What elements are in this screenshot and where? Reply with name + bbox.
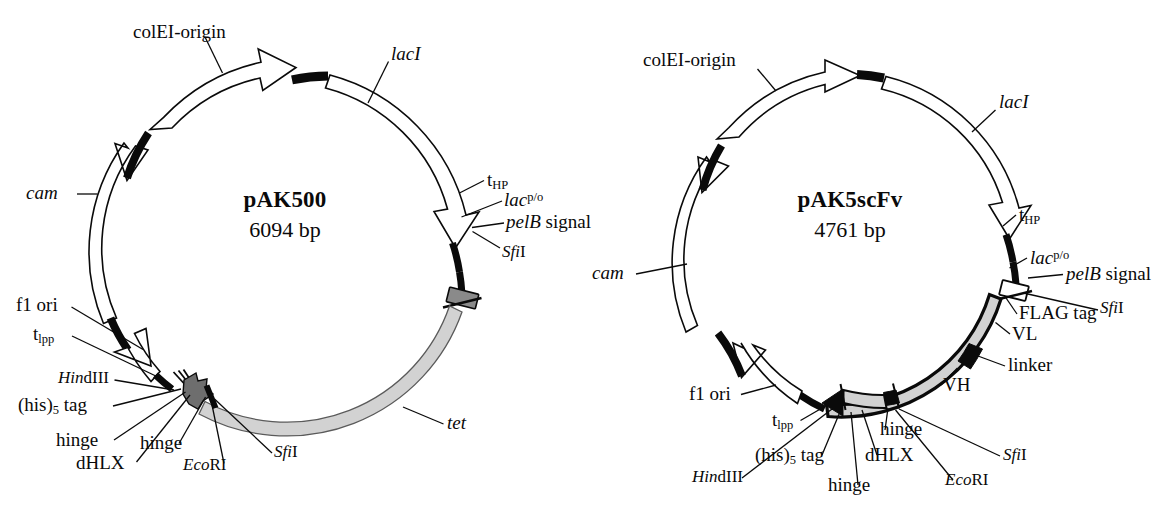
pak5scfv-label-pelb-signal: pelB signal: [1066, 264, 1151, 284]
pak5scfv-label-thp: tHP: [1019, 205, 1040, 227]
pak500-thp-black-segment: [453, 243, 460, 272]
pak500-label-hindiii-i: Hin: [58, 368, 84, 387]
pak5scfv-label-tlpp-sub: lpp: [777, 418, 793, 432]
pak500-label-pelb-rest: signal: [541, 211, 591, 232]
pak5scfv-label-hindiii: HindIII: [692, 468, 743, 486]
pak5scfv-label-colei-origin: colEI-origin: [643, 50, 736, 70]
pak500-tet-band: [199, 306, 462, 436]
pak500-label-ecori-i: Eco: [183, 455, 209, 474]
plasmid-pak5scfv: [636, 60, 1098, 485]
pak500-label-dhlx: dHLX: [76, 453, 125, 473]
pak5scfv-label-hindiii-r: dIII: [718, 467, 743, 486]
pak500-label-hinge-right: hinge: [140, 433, 182, 453]
pak500-leader-lines: [72, 37, 505, 464]
pak500-label-tlpp-sub: lpp: [38, 332, 54, 346]
pak500-top-black-joint: [292, 76, 328, 80]
pak500-label-f1-ori: f1 ori: [16, 295, 58, 315]
pak5scfv-label-sfi1-bot-r: I: [1021, 445, 1027, 464]
pak500-label-cam: cam: [26, 183, 58, 203]
pak5scfv-label-sfi1-bottom: SfiI: [1003, 446, 1027, 464]
pak5scfv-thp-black-segment: [1006, 235, 1013, 263]
pak500-label-laci: lacI: [391, 44, 421, 64]
pak5scfv-his-tag-block: [844, 390, 887, 408]
pak500-colei-origin-arc: [150, 49, 296, 130]
pak500-label-lacpo-sup: p/o: [527, 190, 543, 204]
pak5scfv-title: pAK5scFv: [750, 188, 950, 212]
pak5scfv-label-ecori-i: Eco: [945, 470, 971, 489]
pak5scfv-top-black-joint: [857, 75, 884, 79]
pak5scfv-label-ecori-r: RI: [971, 470, 988, 489]
pak500-label-lacpo: lacp/o: [504, 190, 543, 210]
pak5scfv-label-his-tag-post: tag: [796, 444, 824, 465]
pak5scfv-label-vl: VL: [1012, 324, 1037, 344]
pak5scfv-label-lacpo-base: lac: [1030, 247, 1053, 268]
pak5scfv-size: 4761 bp: [750, 218, 950, 241]
pak5scfv-label-cam: cam: [592, 263, 624, 283]
pak5scfv-label-hinge-bottom: hinge: [828, 475, 870, 495]
pak500-label-his-tag-pre: (his): [18, 394, 53, 415]
pak5scfv-label-hinge-mid: hinge: [880, 419, 922, 439]
pak5scfv-label-lacpo-sup: p/o: [1053, 248, 1069, 262]
pak5scfv-label-pelb-rest: signal: [1101, 263, 1151, 284]
pak5scfv-tlpp-black-bar: [800, 395, 825, 409]
pak5scfv-label-tlpp: tlpp: [772, 410, 793, 432]
pak5scfv-label-vh: VH: [943, 375, 970, 395]
pak500-label-sfi1-bot-i: Sfi: [274, 442, 292, 461]
pak500-title: pAK500: [190, 188, 380, 212]
pak5scfv-label-lacpo: lacp/o: [1030, 248, 1069, 268]
pak5scfv-label-sfi1-top-i: Sfi: [1100, 298, 1118, 317]
pak500-label-hinge-left: hinge: [56, 430, 98, 450]
pak500-label-sfi1-top-r: I: [520, 242, 526, 261]
pak5scfv-label-sfi1-top: SfiI: [1100, 299, 1124, 317]
pak5scfv-label-his-tag-pre: (his): [755, 444, 790, 465]
plasmid-pak500: [72, 37, 505, 464]
pak5scfv-label-hindiii-i: Hin: [692, 467, 718, 486]
pak500-label-tlpp: tlpp: [33, 324, 54, 346]
pak5scfv-label-flag-tag: FLAG tag: [1019, 303, 1097, 323]
pak500-label-colei-origin: colEI-origin: [133, 22, 226, 42]
pak5scfv-label-ecori: EcoRI: [945, 471, 988, 489]
pak5scfv-label-sfi1-bot-i: Sfi: [1003, 445, 1021, 464]
pak500-label-hindiii: HindIII: [58, 369, 109, 387]
pak5scfv-label-f1-ori: f1 ori: [689, 384, 731, 404]
pak500-label-tet: tet: [447, 413, 466, 433]
pak500-label-sfi1-bot-r: I: [292, 442, 298, 461]
pak500-label-his-tag: (his)5 tag: [18, 395, 87, 417]
pak5scfv-label-linker: linker: [1008, 355, 1052, 375]
pak5scfv-label-sfi1-top-r: I: [1118, 298, 1124, 317]
pak500-label-hindiii-r: dIII: [84, 368, 109, 387]
pak500-label-ecori-r: RI: [209, 455, 226, 474]
pak500-label-sfi1-bottom: SfiI: [274, 443, 298, 461]
pak500-size: 6094 bp: [190, 218, 380, 241]
figure-canvas: pAK500 6094 bp colEI-origin lacI tHP lac…: [0, 0, 1156, 524]
pak5scfv-label-his-tag: (his)5 tag: [755, 445, 824, 467]
pak500-cam-arc: [89, 143, 148, 324]
pak5scfv-label-thp-sub: HP: [1024, 213, 1040, 227]
pak5scfv-label-laci: lacI: [999, 92, 1029, 112]
pak5scfv-leader-lines: [636, 69, 1098, 485]
pak5scfv-label-dhlx: dHLX: [865, 445, 914, 465]
pak5scfv-label-pelb-italic: pelB: [1066, 263, 1101, 284]
pak500-cam-lower-black-joint: [111, 318, 129, 350]
pak500-label-pelb-signal: pelB signal: [506, 212, 591, 232]
pak500-label-sfi1-top-i: Sfi: [502, 242, 520, 261]
pak5scfv-colei-origin-arc: [717, 60, 860, 139]
pak500-label-pelb-italic: pelB: [506, 211, 541, 232]
pak500-label-sfi1-top: SfiI: [502, 243, 526, 261]
pak500-label-lacpo-base: lac: [504, 189, 527, 210]
pak500-label-ecori: EcoRI: [183, 456, 226, 474]
pak500-label-his-tag-post: tag: [59, 394, 87, 415]
